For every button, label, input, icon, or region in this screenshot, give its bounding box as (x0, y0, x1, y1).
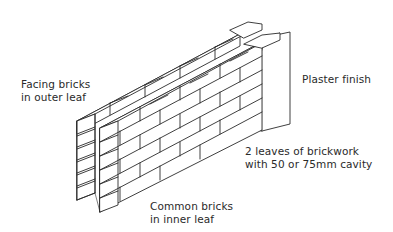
inner-leaf (100, 33, 280, 212)
label-facing-line1: Facing bricks (21, 78, 90, 91)
label-plaster-finish: Plaster finish (302, 73, 371, 86)
label-brickwork-leaves: 2 leaves of brickwork with 50 or 75mm ca… (245, 145, 372, 171)
label-leaves-line2: with 50 or 75mm cavity (245, 158, 372, 171)
cavity-gap (95, 193, 100, 212)
label-common-line2: in inner leaf (150, 213, 233, 226)
label-facing-line2: in outer leaf (21, 91, 90, 104)
label-common-bricks: Common bricks in inner leaf (150, 200, 233, 226)
label-leaves-line1: 2 leaves of brickwork (245, 145, 372, 158)
cavity-wall-diagram (0, 0, 393, 232)
label-plaster-line1: Plaster finish (302, 73, 371, 86)
label-common-line1: Common bricks (150, 200, 233, 213)
label-facing-bricks: Facing bricks in outer leaf (21, 78, 90, 104)
